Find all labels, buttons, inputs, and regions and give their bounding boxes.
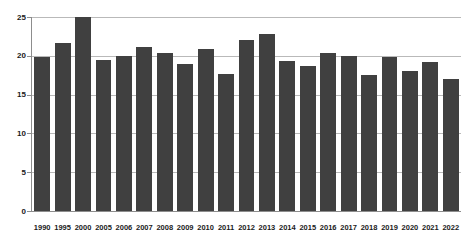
y-tick-label-15: 15: [2, 90, 26, 99]
x-tick-label-2007: 2007: [134, 223, 154, 232]
bar-2008: [157, 53, 173, 211]
bar-2000: [75, 17, 91, 211]
y-tick-mark-5: [27, 172, 32, 173]
x-tick-label-2010: 2010: [195, 223, 215, 232]
bar-2006: [116, 56, 132, 211]
bar-2015: [300, 66, 316, 211]
x-tick-label-2008: 2008: [155, 223, 175, 232]
x-tick-label-1995: 1995: [52, 223, 72, 232]
y-tick-mark-10: [27, 133, 32, 134]
bar-2018: [361, 75, 377, 211]
bar-2016: [320, 53, 336, 211]
x-tick-label-2000: 2000: [73, 223, 93, 232]
bar-chart: 0510152025 19901995200020052006200720082…: [0, 0, 468, 251]
gridline-25: [32, 17, 461, 18]
y-tick-mark-25: [27, 17, 32, 18]
y-tick-label-5: 5: [2, 168, 26, 177]
y-tick-mark-15: [27, 95, 32, 96]
bar-2011: [218, 74, 234, 211]
bar-1995: [55, 43, 71, 211]
x-tick-label-2014: 2014: [277, 223, 297, 232]
x-tick-label-2006: 2006: [114, 223, 134, 232]
x-tick-label-2017: 2017: [338, 223, 358, 232]
x-tick-label-2012: 2012: [236, 223, 256, 232]
x-tick-label-2011: 2011: [216, 223, 236, 232]
x-tick-label-2018: 2018: [359, 223, 379, 232]
x-tick-label-2020: 2020: [400, 223, 420, 232]
y-tick-label-0: 0: [2, 207, 26, 216]
y-tick-label-25: 25: [2, 13, 26, 22]
x-tick-label-2022: 2022: [441, 223, 461, 232]
x-tick-label-2005: 2005: [93, 223, 113, 232]
bar-1990: [34, 57, 50, 211]
x-tick-label-2015: 2015: [298, 223, 318, 232]
y-tick-mark-0: [27, 211, 32, 212]
bar-2013: [259, 34, 275, 211]
bar-2010: [198, 49, 214, 211]
y-axis-tick-labels: 0510152025: [0, 0, 26, 251]
bar-2009: [177, 64, 193, 211]
x-axis-tick-labels: 1990199520002005200620072008200920102011…: [32, 216, 461, 232]
y-tick-mark-20: [27, 56, 32, 57]
y-tick-label-20: 20: [2, 51, 26, 60]
x-tick-label-2016: 2016: [318, 223, 338, 232]
bar-2019: [382, 57, 398, 211]
y-tick-label-10: 10: [2, 129, 26, 138]
bar-2021: [422, 62, 438, 211]
bar-2020: [402, 71, 418, 211]
plot-area: [32, 17, 461, 211]
x-tick-label-2013: 2013: [257, 223, 277, 232]
bar-2007: [136, 47, 152, 211]
x-tick-label-2019: 2019: [379, 223, 399, 232]
x-tick-label-2021: 2021: [420, 223, 440, 232]
bar-2022: [443, 79, 459, 211]
x-tick-label-1990: 1990: [32, 223, 52, 232]
bar-2017: [341, 56, 357, 211]
bar-2014: [279, 61, 295, 211]
bar-2012: [239, 40, 255, 211]
bar-2005: [96, 60, 112, 211]
gridline-0: [32, 211, 461, 212]
x-tick-label-2009: 2009: [175, 223, 195, 232]
